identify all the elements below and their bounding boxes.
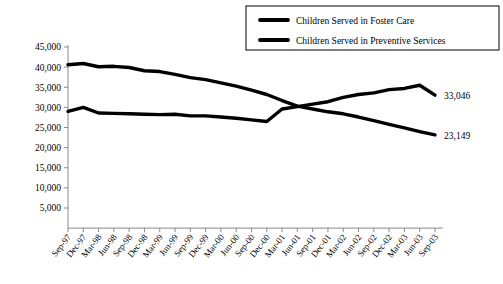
y-axis-tick-label: 5,000	[40, 203, 62, 213]
y-axis-tick-label: 45,000	[35, 42, 61, 52]
legend-label-preventive-services: Children Served in Preventive Services	[296, 36, 446, 46]
legend-label-foster-care: Children Served in Foster Care	[296, 16, 414, 26]
y-axis-tick-label: 30,000	[35, 103, 61, 113]
y-axis-tick-label: 35,000	[35, 83, 61, 93]
endpoint-label-foster-care: 23,149	[444, 131, 470, 141]
y-axis-tick-label: 25,000	[35, 123, 61, 133]
y-axis-tick-label: 20,000	[35, 143, 61, 153]
series-line-foster-care	[68, 64, 435, 135]
y-axis-tick-label: 10,000	[35, 183, 61, 193]
y-axis-tick-label: 15,000	[35, 163, 61, 173]
chart-container: 5,00010,00015,00020,00025,00030,00035,00…	[0, 0, 503, 284]
endpoint-label-preventive-services: 33,046	[444, 91, 470, 101]
y-axis-tick-label: 40,000	[35, 63, 61, 73]
line-chart: 5,00010,00015,00020,00025,00030,00035,00…	[0, 0, 503, 284]
